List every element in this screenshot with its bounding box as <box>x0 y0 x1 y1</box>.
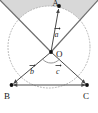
point-label-b: B <box>4 91 10 101</box>
vector-label-c-group: c <box>56 64 62 76</box>
point-label-o: O <box>56 49 63 59</box>
point-o-dot <box>49 50 53 54</box>
point-c-dot <box>85 83 89 87</box>
point-label-c: C <box>83 91 89 101</box>
geometry-figure: A O B C a b c <box>0 0 98 113</box>
vector-label-b-group: b <box>30 64 36 76</box>
angle-boc-arc <box>43 59 60 63</box>
point-label-a: A <box>52 0 59 8</box>
vector-label-a: a <box>55 30 59 39</box>
wedge-tint-above-arc <box>0 0 98 52</box>
vector-label-b: b <box>30 67 34 76</box>
vector-c-accent-arrowhead <box>60 64 62 67</box>
point-b-dot <box>10 83 14 87</box>
vector-label-c: c <box>56 67 60 76</box>
figure-canvas: A O B C a b c <box>0 0 98 113</box>
